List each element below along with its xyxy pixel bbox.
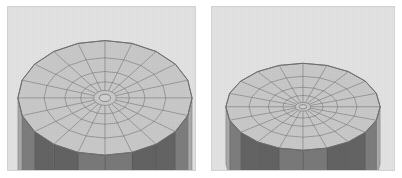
wireframe-right <box>226 63 380 150</box>
mesh-group-left <box>18 41 192 170</box>
wireframe-left <box>18 41 192 156</box>
cylinder-render-left <box>8 7 195 170</box>
screenshot-root <box>0 0 402 178</box>
cylinder-render-right <box>212 7 394 170</box>
viewport-right[interactable] <box>211 6 395 171</box>
mesh-group-right <box>226 63 380 170</box>
viewport-left[interactable] <box>7 6 196 171</box>
